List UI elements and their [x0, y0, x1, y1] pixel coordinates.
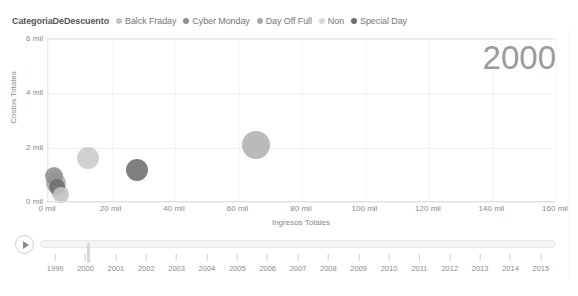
timeline-year-label: 2000 — [77, 264, 94, 273]
timeline-year-label: 2004 — [199, 264, 216, 273]
timeline-tick-mark — [389, 254, 390, 261]
timeline-tick-mark — [510, 254, 511, 261]
timeline-tick-mark — [540, 254, 541, 261]
gridline-horizontal — [48, 202, 555, 203]
plot-area — [47, 38, 555, 201]
legend-swatch-icon — [319, 18, 325, 24]
timeline-tick-mark — [55, 254, 56, 261]
timeline-tick-mark — [146, 254, 147, 261]
timeline-slider[interactable]: 1999200020012002200320042005200620072008… — [12, 232, 564, 286]
x-tick-label: 80 mil — [290, 204, 311, 213]
timeline-year-2009[interactable]: 2009 — [350, 254, 367, 273]
timeline-year-2011[interactable]: 2011 — [411, 254, 427, 273]
timeline-year-label: 2013 — [472, 264, 489, 273]
timeline-year-2003[interactable]: 2003 — [168, 254, 185, 273]
timeline-tick-mark — [358, 254, 359, 261]
legend-item-special-day[interactable]: Special Day — [351, 16, 407, 26]
card-edge-divider — [569, 30, 570, 280]
legend-item-label: Non — [328, 16, 344, 26]
gridline-vertical — [112, 39, 113, 201]
x-tick-label: 20 mil — [100, 204, 121, 213]
legend-item-non[interactable]: Non — [319, 16, 344, 26]
timeline-year-label: 1999 — [47, 264, 64, 273]
legend-title: CategoriaDeDescuento — [12, 16, 109, 26]
x-axis-ticks: 0 mil20 mil40 mil60 mil80 mil100 mil120 … — [47, 204, 555, 216]
x-tick-label: 140 mil — [479, 204, 505, 213]
timeline-year-2001[interactable]: 2001 — [108, 254, 125, 273]
x-axis-title: Ingresos Totales — [47, 218, 555, 227]
timeline-tick-mark — [206, 254, 207, 261]
y-axis-title: Costos Totales — [9, 58, 18, 138]
slider-track[interactable] — [40, 240, 556, 248]
data-bubble[interactable] — [77, 147, 99, 169]
x-tick-label: 160 mil — [542, 204, 568, 213]
timeline-year-label: 2001 — [108, 264, 125, 273]
timeline-year-label: 2008 — [320, 264, 337, 273]
timeline-year-label: 2010 — [381, 264, 398, 273]
timeline-year-2004[interactable]: 2004 — [199, 254, 216, 273]
timeline-tick-mark — [267, 254, 268, 261]
data-bubble[interactable] — [126, 159, 148, 181]
timeline-year-label: 2006 — [259, 264, 276, 273]
timeline-tick-mark — [298, 254, 299, 261]
x-axis-line — [47, 201, 555, 202]
legend-item-day-off-full[interactable]: Day Off Full — [257, 16, 312, 26]
timeline-year-2005[interactable]: 2005 — [229, 254, 246, 273]
legend-item-balck-fraday[interactable]: Balck Fraday — [116, 16, 176, 26]
legend-item-label: Day Off Full — [266, 16, 312, 26]
gridline-vertical — [429, 39, 430, 201]
timeline-year-label: 2009 — [350, 264, 367, 273]
timeline-tick-mark — [328, 254, 329, 261]
timeline-year-label: 2002 — [138, 264, 155, 273]
timeline-year-2013[interactable]: 2013 — [472, 254, 489, 273]
timeline-year-2002[interactable]: 2002 — [138, 254, 155, 273]
timeline-tick-mark — [237, 254, 238, 261]
timeline-year-label: 2005 — [229, 264, 246, 273]
legend-swatch-icon — [351, 18, 357, 24]
gridline-vertical — [302, 39, 303, 201]
timeline-tick-mark — [419, 254, 420, 261]
play-icon[interactable] — [15, 235, 34, 254]
legend-swatch-icon — [116, 18, 122, 24]
legend-item-cyber-monday[interactable]: Cyber Monday — [183, 16, 249, 26]
timeline-year-2015[interactable]: 2015 — [532, 254, 549, 273]
x-tick-label: 40 mil — [163, 204, 184, 213]
timeline-tick-mark — [85, 254, 86, 261]
timeline-year-2008[interactable]: 2008 — [320, 254, 337, 273]
gridline-vertical — [175, 39, 176, 201]
timeline-year-label: 2014 — [502, 264, 519, 273]
y-tick-label: 4 mil — [26, 88, 43, 97]
timeline-year-2007[interactable]: 2007 — [290, 254, 307, 273]
gridline-vertical — [366, 39, 367, 201]
timeline-year-label: 2012 — [441, 264, 458, 273]
timeline-tick-mark — [115, 254, 116, 261]
legend-item-label: Balck Fraday — [125, 16, 176, 26]
gridline-vertical — [556, 39, 557, 201]
x-tick-label: 60 mil — [227, 204, 248, 213]
timeline-year-2000[interactable]: 2000 — [77, 254, 94, 273]
bubble-chart-visual: CategoriaDeDescuento Balck Fraday Cyber … — [0, 0, 578, 296]
gridline-vertical — [239, 39, 240, 201]
y-tick-label: 2 mil — [26, 142, 43, 151]
timeline-year-label: 2007 — [290, 264, 307, 273]
y-tick-label: 6 mil — [26, 34, 43, 43]
timeline-year-2010[interactable]: 2010 — [381, 254, 398, 273]
timeline-year-label: 2015 — [532, 264, 549, 273]
timeline-year-label: 2011 — [411, 264, 427, 273]
legend: CategoriaDeDescuento Balck Fraday Cyber … — [12, 14, 414, 28]
timeline-year-2006[interactable]: 2006 — [259, 254, 276, 273]
timeline-year-2014[interactable]: 2014 — [502, 254, 519, 273]
legend-item-label: Special Day — [360, 16, 407, 26]
data-bubble[interactable] — [242, 131, 270, 159]
x-tick-label: 0 mil — [39, 204, 56, 213]
legend-item-label: Cyber Monday — [192, 16, 249, 26]
year-tick-list: 1999200020012002200320042005200620072008… — [40, 254, 556, 280]
play-triangle-icon — [23, 241, 29, 249]
timeline-year-1999[interactable]: 1999 — [47, 254, 64, 273]
x-tick-label: 100 mil — [352, 204, 378, 213]
year-watermark: 2000 — [483, 41, 556, 74]
legend-swatch-icon — [183, 18, 189, 24]
timeline-year-label: 2003 — [168, 264, 185, 273]
timeline-year-2012[interactable]: 2012 — [441, 254, 458, 273]
x-tick-label: 120 mil — [415, 204, 441, 213]
